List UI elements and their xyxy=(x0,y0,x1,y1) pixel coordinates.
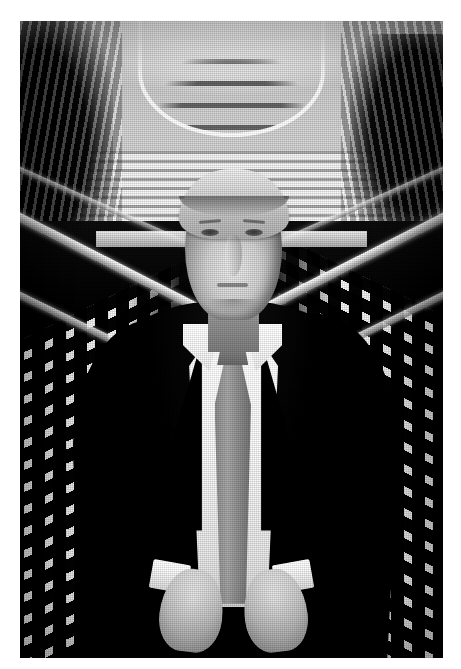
scanned-photograph xyxy=(20,21,443,658)
necktie xyxy=(215,349,251,604)
nose xyxy=(225,235,242,276)
page-canvas xyxy=(0,0,461,669)
chin-shadow xyxy=(206,299,261,314)
eye-left xyxy=(201,229,219,236)
mouth xyxy=(217,283,248,287)
subject-figure xyxy=(20,21,443,658)
eye-right xyxy=(245,229,263,236)
